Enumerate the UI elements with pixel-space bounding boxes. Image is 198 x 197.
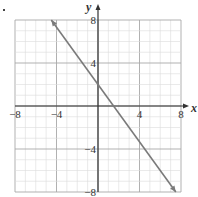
y-axis-label: y [84, 0, 92, 14]
y-tick-label: −4 [84, 143, 96, 155]
x-axis-arrow-icon [183, 104, 189, 109]
x-tick-label: −8 [9, 108, 21, 120]
axes [15, 4, 189, 192]
y-tick-label: −8 [84, 186, 96, 197]
y-tick-label: 4 [91, 57, 97, 69]
y-tick-label: 8 [91, 14, 97, 26]
x-tick-label: 4 [137, 108, 143, 120]
coordinate-plane-chart: −8−44884−4−8 x y [0, 0, 198, 197]
y-axis-arrow-icon [96, 4, 101, 10]
x-tick-label: 8 [178, 108, 184, 120]
x-tick-label: −4 [51, 108, 63, 120]
x-axis-label: x [190, 101, 197, 115]
